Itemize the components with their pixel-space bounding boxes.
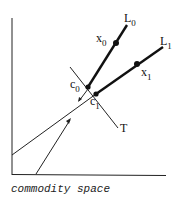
ray-L1 (96, 47, 163, 94)
point-x0 (113, 40, 119, 46)
label-c0: c0 (70, 77, 80, 94)
x-axis (12, 175, 166, 176)
point-c0 (85, 84, 90, 89)
point-x1 (134, 61, 140, 67)
commodity-space-diagram: L0 L1 x0 x1 c0 c1 T commodity space (0, 0, 178, 199)
label-c1: c1 (90, 94, 100, 111)
long-arrow-line (36, 120, 70, 174)
label-x1: x1 (141, 65, 152, 82)
long-arrow-head-icon (66, 118, 71, 124)
caption: commodity space (11, 183, 110, 195)
label-T: T (120, 121, 128, 135)
label-x0: x0 (96, 31, 107, 48)
